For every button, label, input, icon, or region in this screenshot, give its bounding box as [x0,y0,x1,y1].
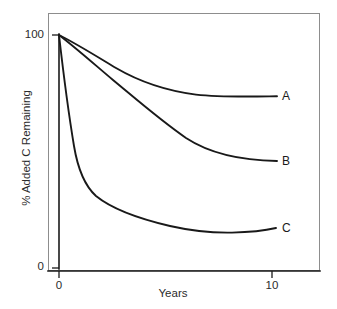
x-axis-tick-label-0: 0 [48,280,70,292]
curve-series-a [59,35,277,97]
series-label-c: C [282,222,291,234]
curve-series-c [59,35,276,233]
x-axis-title: Years [133,287,213,299]
y-axis-tick-label-0: 0 [12,261,44,273]
series-label-b: B [282,155,290,167]
chart-figure: 100 0 0 10 Years % Added C Remaining A B… [0,0,337,309]
series-label-a: A [282,90,290,102]
y-axis-title: % Added C Remaining [20,78,32,218]
y-axis-tick-label-100: 100 [12,29,44,41]
x-axis-tick-label-10: 10 [261,280,283,292]
